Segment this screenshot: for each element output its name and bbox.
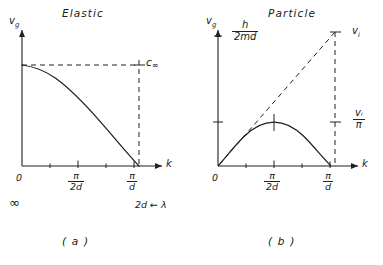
fraction-numerator: π <box>68 171 84 181</box>
fraction-numerator: h <box>232 20 258 31</box>
panel-b-title: Particle <box>268 8 316 19</box>
panel-a-group-velocity-curve <box>22 65 139 166</box>
fraction-denominator: 2d <box>264 181 280 192</box>
fraction-denominator: π <box>353 119 365 131</box>
fraction-vi-over-pi: vᵢ π <box>353 108 365 130</box>
panel-b-xtick-label-pi-d: π d <box>323 171 333 192</box>
panel-b-caption: ( b ) <box>268 236 296 247</box>
panel-b-h-over-2md-label: h 2md <box>232 20 258 42</box>
fraction-h-over-2md: h 2md <box>232 20 258 42</box>
panel-a-plot <box>22 30 162 168</box>
fraction-pi-over-d: π d <box>127 171 137 192</box>
panel-b-plot <box>213 30 358 168</box>
physics-figure: Elastic vg k 0 π 2d π d c∞ ∞ 2d ← λ ( a … <box>0 0 383 265</box>
panel-a-origin-label: 0 <box>16 173 22 183</box>
panel-a-infinity-label: ∞ <box>9 196 20 209</box>
panel-b-x-axis-label: k <box>362 159 368 169</box>
panel-a-caption: ( a ) <box>62 236 89 247</box>
fraction-pi-over-2d: π 2d <box>264 171 280 192</box>
panel-a-wavelength-arrow-label: 2d ← λ <box>135 200 167 210</box>
panel-b-y-axis-label: vg <box>206 16 216 29</box>
panel-a-y-axis-label: vg <box>9 16 19 29</box>
fraction-denominator: d <box>127 181 137 192</box>
panel-a-c-infinity-label: c∞ <box>146 57 158 70</box>
panel-a-xtick-label-pi-d: π d <box>127 171 137 192</box>
infinity-subscript: ∞ <box>152 61 159 70</box>
panel-b-xtick-label-pi-2d: π 2d <box>264 171 280 192</box>
panel-a-title: Elastic <box>62 8 104 19</box>
fraction-denominator: 2md <box>232 31 258 43</box>
fraction-numerator: π <box>264 171 280 181</box>
fraction-numerator: π <box>323 171 333 181</box>
panel-a-x-axis-label: k <box>166 159 172 169</box>
fraction-numerator: vᵢ <box>353 108 365 119</box>
fraction-pi-over-d: π d <box>323 171 333 192</box>
fraction-numerator: π <box>127 171 137 181</box>
panel-b-vi-label: vi <box>352 26 360 39</box>
fraction-pi-over-2d: π 2d <box>68 171 84 192</box>
panel-a-y-axis-subscript: g <box>15 21 19 29</box>
panel-b-origin-label: 0 <box>212 173 218 183</box>
panel-b-y-axis-subscript: g <box>212 21 216 29</box>
fraction-denominator: d <box>323 181 333 192</box>
panel-a-xtick-label-pi-2d: π 2d <box>68 171 84 192</box>
fraction-denominator: 2d <box>68 181 84 192</box>
v-subscript: i <box>358 31 360 39</box>
panel-b-vi-over-pi-label: vᵢ π <box>353 108 365 130</box>
figure-canvas <box>0 0 383 265</box>
